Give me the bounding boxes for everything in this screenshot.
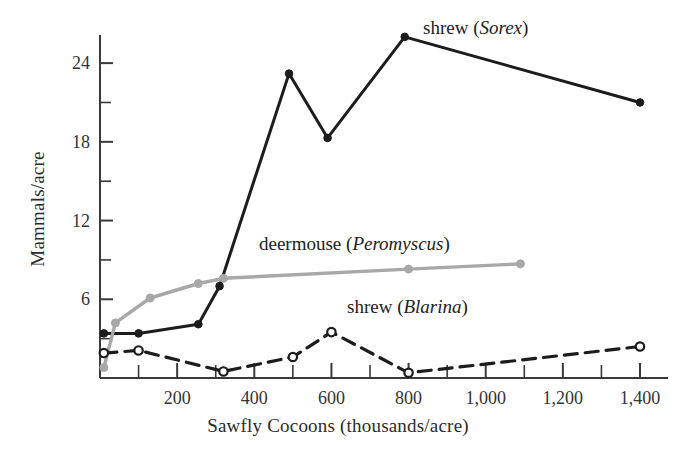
data-point-0-6: [401, 33, 409, 41]
data-point-1-2: [146, 294, 154, 302]
data-point-1-5: [405, 265, 413, 273]
x-tick-label-1000: 1,000: [465, 388, 506, 409]
series-label-peromyscus: deermouse (Peromyscus): [259, 233, 450, 255]
series-label-sorex: shrew (Sorex): [423, 17, 528, 39]
x-axis-title: Sawfly Cocoons (thousands/acre): [0, 415, 676, 437]
data-point-1-4: [219, 274, 227, 282]
x-tick-label-600: 600: [318, 388, 345, 409]
data-point-0-5: [324, 134, 332, 142]
data-point-2-3: [289, 353, 297, 361]
data-point-0-7: [636, 99, 644, 107]
y-tick-label-18: 18: [44, 131, 90, 152]
data-series-group: [100, 33, 645, 377]
series-line-2: [104, 332, 640, 373]
chart-figure: 2004006008001,0001,2001,4006121824 Sawfl…: [0, 0, 676, 460]
data-point-0-0: [100, 330, 108, 338]
data-point-2-2: [219, 367, 227, 375]
y-tick-label-12: 12: [44, 210, 90, 231]
x-tick-label-1400: 1,400: [620, 388, 661, 409]
y-axis-title: Mammals/acre: [27, 99, 49, 319]
data-point-2-0: [100, 349, 108, 357]
data-point-1-3: [194, 280, 202, 288]
data-point-2-1: [134, 346, 142, 354]
x-tick-label-200: 200: [164, 388, 191, 409]
data-point-0-2: [195, 320, 203, 328]
data-point-1-1: [111, 319, 119, 327]
data-point-0-1: [135, 330, 143, 338]
data-point-2-5: [404, 369, 412, 377]
x-tick-label-1200: 1,200: [543, 388, 584, 409]
data-point-0-3: [216, 282, 224, 290]
x-tick-label-800: 800: [395, 388, 422, 409]
series-label-blarina: shrew (Blarina): [347, 296, 468, 318]
y-tick-label-24: 24: [44, 53, 90, 74]
data-point-2-6: [636, 342, 644, 350]
data-point-0-4: [285, 70, 293, 78]
data-point-2-4: [327, 328, 335, 336]
y-tick-label-6: 6: [44, 289, 90, 310]
axis-ticks: [100, 63, 640, 378]
data-point-1-6: [516, 260, 524, 268]
x-tick-label-400: 400: [241, 388, 268, 409]
data-point-1-0: [100, 364, 108, 372]
